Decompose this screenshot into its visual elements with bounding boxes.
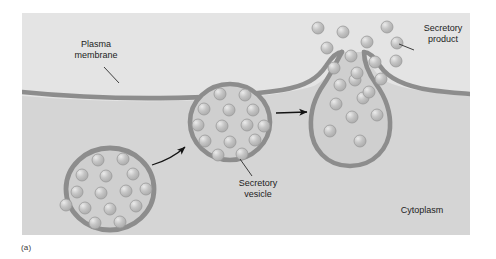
- exocytosis-diagram: Plasma membrane Secretory product Secret…: [0, 0, 496, 259]
- illustration-panel: Plasma membrane Secretory product Secret…: [22, 13, 470, 235]
- figure-root: Plasma membrane Secretory product Secret…: [0, 0, 496, 259]
- cytoplasm-label: Cytoplasm: [401, 205, 444, 215]
- label-secretory-product: Secretory product: [424, 23, 463, 44]
- secretory-product-label-line-1: Secretory: [424, 23, 463, 33]
- plasma-membrane-label-line-2: membrane: [74, 50, 117, 60]
- secretory-product-target-granule: [391, 37, 403, 49]
- label-cytoplasm: Cytoplasm: [401, 205, 444, 215]
- figure-caption: (a): [21, 243, 31, 252]
- secretory-vesicle-label-line-2: vesicle: [244, 189, 272, 199]
- secretory-product-label-line-2: product: [428, 34, 459, 44]
- plasma-membrane-label-line-1: Plasma: [81, 39, 111, 49]
- secretory-vesicle-label-line-1: Secretory: [239, 178, 278, 188]
- middle-vesicle: [190, 84, 270, 161]
